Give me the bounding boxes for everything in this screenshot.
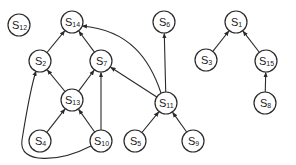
node-s9: S9 bbox=[182, 130, 204, 152]
node-s13: S13 bbox=[61, 89, 83, 111]
edge-s11-to-s7 bbox=[111, 67, 157, 97]
edge-s15-to-s1 bbox=[243, 31, 259, 52]
node-s12: S12 bbox=[8, 14, 30, 36]
edge-s5-to-s11 bbox=[142, 112, 159, 133]
edge-s11-to-s6 bbox=[164, 33, 165, 92]
node-s2: S2 bbox=[29, 50, 51, 72]
node-s3: S3 bbox=[195, 49, 217, 71]
node-s11: S11 bbox=[155, 92, 177, 114]
edge-s2-to-s14 bbox=[47, 31, 65, 53]
edge-s7-to-s14 bbox=[79, 31, 95, 52]
node-s8: S8 bbox=[254, 92, 276, 114]
node-s6: S6 bbox=[153, 11, 175, 33]
node-s15: S15 bbox=[255, 50, 277, 72]
edge-s13-to-s7 bbox=[79, 70, 95, 91]
node-s5: S5 bbox=[124, 130, 146, 152]
node-s14: S14 bbox=[61, 11, 83, 33]
node-s4: S4 bbox=[29, 130, 51, 152]
edge-s10-to-s13 bbox=[79, 109, 95, 132]
edge-s3-to-s1 bbox=[213, 31, 229, 51]
node-s1: S1 bbox=[225, 11, 247, 33]
node-s10: S10 bbox=[90, 130, 112, 152]
directed-graph: S12S14S2S7S13S4S10S5S11S9S6S1S3S15S8 bbox=[0, 0, 296, 165]
edge-s13-to-s2 bbox=[47, 70, 65, 92]
node-s7: S7 bbox=[90, 50, 112, 72]
edge-s4-to-s13 bbox=[47, 109, 65, 132]
edge-s9-to-s11 bbox=[173, 112, 187, 132]
